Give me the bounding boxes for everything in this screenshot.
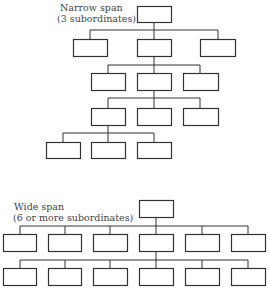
span-of-control-diagram: Narrow span (3 subordinates) Wide span (…	[0, 0, 268, 296]
org-chart-drawing	[0, 0, 268, 296]
position-boxes	[4, 7, 266, 286]
